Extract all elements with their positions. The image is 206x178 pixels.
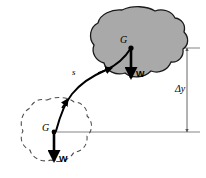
mechanics-figure: G W G W s Δy [0,0,206,178]
lower-w-label: W [59,155,68,164]
upper-g-label: G [120,35,127,45]
motion-path [56,48,131,131]
lower-g-label: G [42,123,49,133]
final-position-body [91,7,188,77]
upper-w-label: W [136,70,145,79]
delta-y-label: Δy [175,84,185,94]
path-s-label: s [72,68,76,77]
